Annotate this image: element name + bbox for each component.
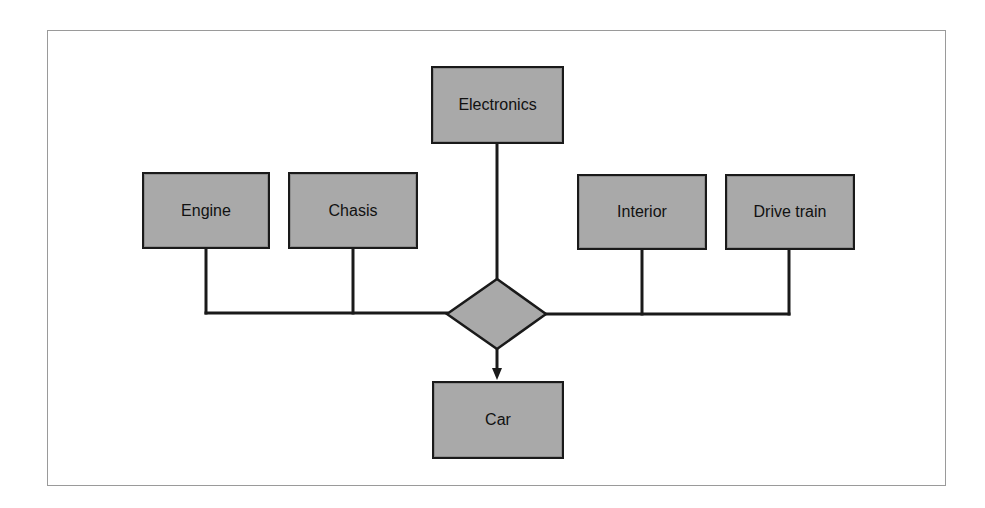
node-label: Chasis — [329, 202, 378, 220]
node-label: Drive train — [754, 203, 827, 221]
junction-diamond — [447, 279, 546, 349]
node-label: Interior — [617, 203, 667, 221]
node-car: Car — [432, 381, 564, 459]
node-drive-train: Drive train — [725, 174, 855, 250]
node-interior: Interior — [577, 174, 707, 250]
node-label: Electronics — [458, 96, 536, 114]
node-label: Car — [485, 411, 511, 429]
arrowhead-icon — [492, 368, 502, 380]
node-label: Engine — [181, 202, 231, 220]
node-electronics: Electronics — [431, 66, 564, 144]
node-chasis: Chasis — [288, 172, 418, 249]
node-engine: Engine — [142, 172, 270, 249]
